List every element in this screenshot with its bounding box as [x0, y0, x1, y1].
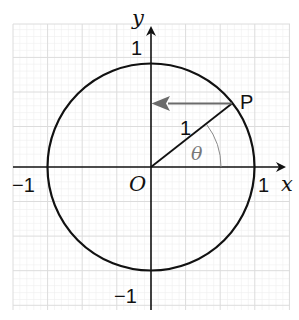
x-axis-label: x: [281, 172, 293, 196]
origin-label: O: [129, 172, 146, 196]
point-label: P: [240, 91, 253, 113]
arrowhead-icon: [152, 96, 171, 111]
tick-label-y-neg: −1: [114, 285, 137, 307]
tick-label-x-neg: −1: [12, 174, 35, 196]
tick-label-x-pos: 1: [258, 174, 269, 196]
y-axis-label: y: [131, 6, 145, 30]
unit-circle-diagram: y x O 1 −1 −1 1 P 1 θ: [0, 0, 299, 320]
angle-label: θ: [191, 142, 203, 164]
radius-label: 1: [180, 117, 191, 139]
tick-label-y-pos: 1: [131, 37, 142, 59]
